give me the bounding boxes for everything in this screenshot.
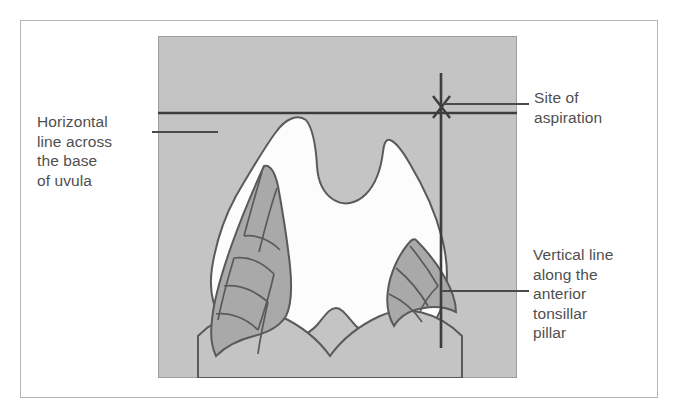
label-site-of-aspiration: Site of aspiration <box>534 88 654 127</box>
label-vertical-line: Vertical line along the anterior tonsill… <box>533 245 653 343</box>
figure-root: Horizontal line across the base of uvula… <box>0 0 680 418</box>
leader-line-horizontal <box>152 131 218 133</box>
leader-line-vertical <box>441 290 529 292</box>
label-horizontal-line: Horizontal line across the base of uvula <box>37 112 155 190</box>
oropharynx-illustration <box>158 36 517 378</box>
leader-line-site-of-aspiration <box>443 103 529 105</box>
